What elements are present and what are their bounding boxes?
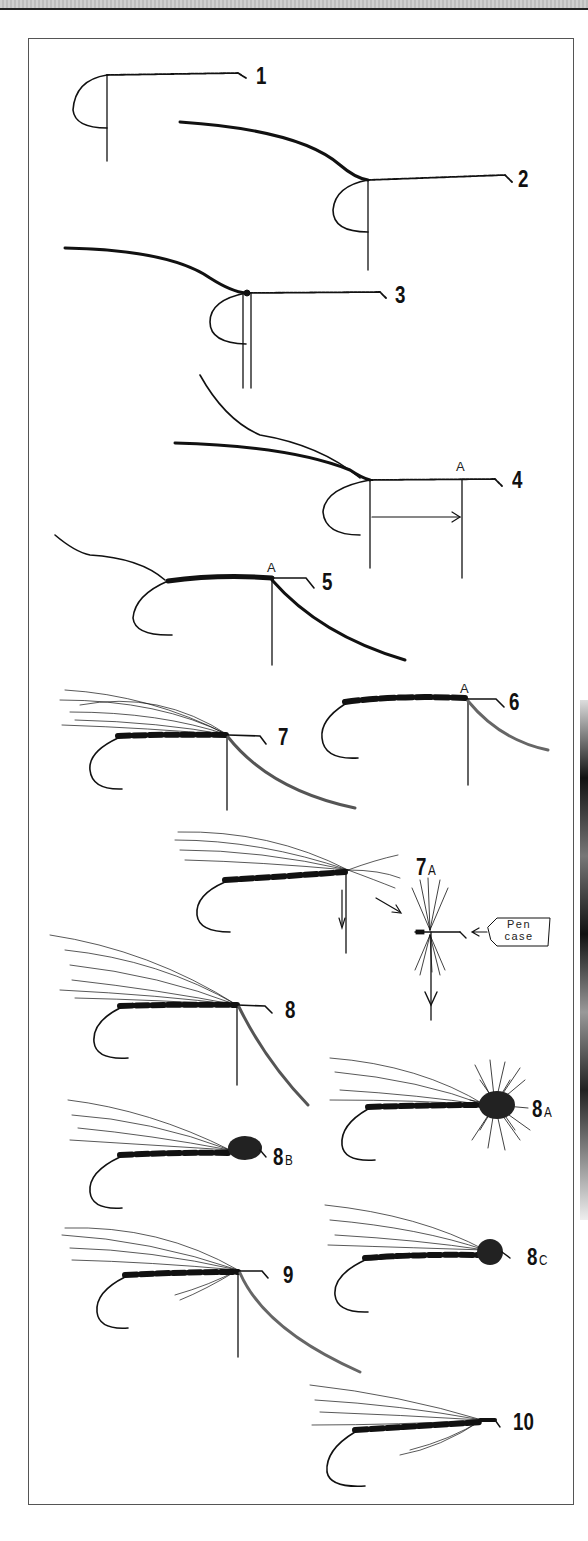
pen-case-line2: case — [488, 930, 550, 942]
step-8b-hook — [68, 1100, 266, 1208]
step-label-7: 7 — [278, 725, 288, 749]
step-10-hook — [310, 1385, 500, 1486]
step-7-hook — [60, 690, 355, 810]
step-7a-hackle — [412, 878, 550, 1020]
step-label-8a: 8A — [532, 1097, 552, 1121]
pen-case-label: Pen case — [488, 918, 550, 946]
step-label-8: 8 — [285, 998, 295, 1022]
step-label-9: 9 — [283, 1263, 293, 1287]
fly-tying-illustration — [0, 0, 588, 1541]
point-a-marker-step6: A — [460, 682, 469, 695]
step-label-10: 10 — [513, 1410, 534, 1434]
step-label-8c: 8C — [527, 1245, 547, 1269]
step-8a-hook — [330, 1058, 530, 1160]
step-label-5: 5 — [322, 570, 332, 594]
step-1-hook — [73, 73, 246, 161]
step-label-6: 6 — [509, 690, 519, 714]
point-a-marker-step5: A — [267, 561, 276, 574]
step-8-hook — [50, 935, 308, 1105]
step-7a-hook — [175, 832, 401, 953]
step-label-2: 2 — [518, 167, 528, 191]
step-label-3: 3 — [395, 283, 405, 307]
point-a-marker-step4: A — [456, 460, 465, 473]
step-2-hook — [180, 122, 512, 270]
step-3-hook — [65, 248, 386, 388]
step-9-hook — [62, 1228, 360, 1372]
step-label-1: 1 — [256, 64, 266, 88]
step-label-7a: 7A — [416, 855, 436, 879]
step-4-hook — [175, 375, 502, 578]
pen-case-line1: Pen — [488, 918, 550, 930]
step-5-hook — [55, 535, 405, 665]
step-label-8b: 8B — [273, 1145, 293, 1169]
step-8c-hook — [325, 1205, 510, 1312]
step-label-4: 4 — [512, 468, 522, 492]
